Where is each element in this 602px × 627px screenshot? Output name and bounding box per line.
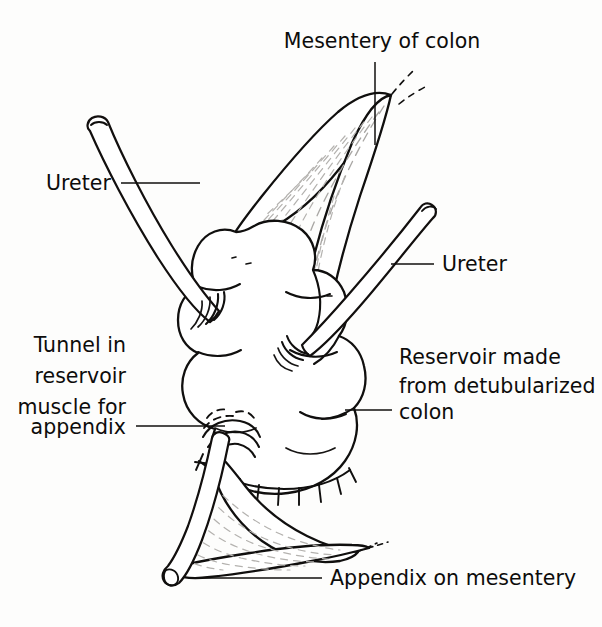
ureter-left [88, 116, 225, 329]
label-tunnel-line-1: Tunnel in [33, 333, 126, 357]
ureter-left-tube [88, 116, 219, 322]
label-appendix-on-mesentery: Appendix on mesentery [330, 566, 576, 590]
anatomical-figure: Mesentery of colon Ureter Ureter Tunnel … [0, 0, 602, 627]
diagram-canvas: Mesentery of colon Ureter Ureter Tunnel … [0, 0, 602, 627]
label-reservoir-line-2: from detubularized [399, 374, 596, 398]
label-reservoir-line-1: Reservoir made [399, 345, 561, 369]
label-ureter-left: Ureter [46, 171, 111, 195]
label-reservoir-line-3: colon [399, 400, 454, 424]
label-reservoir-made-from-detubularized-colon: Reservoir made from detubularized colon [399, 345, 596, 424]
mesentery-cut-edge-marks [392, 70, 427, 104]
label-tunnel-line-4: appendix [31, 415, 126, 439]
label-ureter-right: Ureter [442, 252, 507, 276]
label-tunnel-in-reservoir-muscle: Tunnel in reservoir muscle for appendix [18, 333, 127, 439]
label-tunnel-line-2: reservoir [34, 364, 126, 388]
label-mesentery-of-colon: Mesentery of colon [284, 29, 481, 53]
